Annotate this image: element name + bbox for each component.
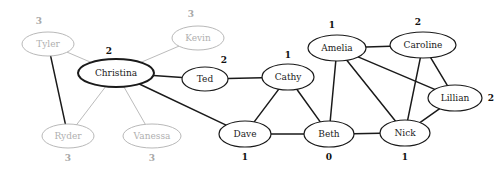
graph-edge-tyler-christina (67, 52, 91, 62)
node-name-amelia: Amelia (320, 43, 353, 53)
graph-node-nick[interactable]: Nick (380, 120, 430, 146)
node-layer: TylerKevinChristinaTedCathyRyderVanessaD… (22, 26, 482, 148)
graph-edge-lillian-nick (420, 109, 440, 123)
graph-node-christina[interactable]: Christina (78, 59, 154, 87)
graph-node-ted[interactable]: Ted (182, 67, 228, 91)
graph-edge-caroline-lillian (431, 58, 448, 86)
node-name-ryder: Ryder (54, 131, 82, 141)
node-name-kevin: Kevin (185, 33, 211, 43)
graph-node-cathy[interactable]: Cathy (262, 64, 314, 90)
node-value-lillian: 2 (488, 93, 494, 103)
node-value-ryder: 3 (65, 153, 71, 163)
node-value-christina: 2 (106, 46, 112, 56)
node-name-beth: Beth (318, 129, 340, 139)
node-value-vanessa: 3 (149, 153, 155, 163)
graph-edge-amelia-lillian (358, 57, 435, 89)
graph-edge-cathy-beth (297, 89, 320, 122)
node-value-beth: 0 (326, 152, 332, 162)
network-diagram: TylerKevinChristinaTedCathyRyderVanessaD… (0, 0, 499, 170)
node-name-caroline: Caroline (404, 40, 443, 50)
graph-node-beth[interactable]: Beth (304, 121, 354, 147)
graph-node-lillian[interactable]: Lillian (428, 85, 482, 111)
node-value-kevin: 3 (188, 9, 194, 19)
node-value-caroline: 2 (415, 17, 421, 27)
graph-edge-cathy-dave (254, 89, 279, 122)
graph-edge-amelia-caroline (366, 46, 390, 47)
graph-edge-christina-vanessa (124, 87, 146, 125)
graph-edge-caroline-nick (408, 58, 421, 120)
graph-edge-tyler-ryder (51, 56, 66, 124)
graph-edge-ted-cathy (228, 78, 262, 79)
graph-edge-christina-ryder (77, 86, 106, 124)
graph-node-tyler[interactable]: Tyler (22, 32, 74, 56)
node-value-amelia: 1 (329, 20, 335, 30)
node-value-dave: 1 (242, 152, 248, 162)
graph-node-caroline[interactable]: Caroline (390, 32, 456, 58)
node-value-nick: 1 (402, 152, 408, 162)
node-value-cathy: 1 (285, 50, 291, 60)
graph-node-dave[interactable]: Dave (219, 121, 271, 147)
node-name-cathy: Cathy (275, 72, 303, 82)
graph-node-kevin[interactable]: Kevin (172, 26, 224, 50)
graph-node-amelia[interactable]: Amelia (308, 35, 366, 61)
node-name-lillian: Lillian (441, 93, 470, 103)
node-name-nick: Nick (394, 128, 416, 138)
graph-node-vanessa[interactable]: Vanessa (123, 124, 181, 148)
node-name-vanessa: Vanessa (133, 131, 171, 141)
node-value-ted: 2 (221, 55, 227, 65)
graph-canvas: TylerKevinChristinaTedCathyRyderVanessaD… (0, 0, 499, 170)
node-name-tyler: Tyler (36, 39, 60, 49)
graph-node-ryder[interactable]: Ryder (42, 124, 94, 148)
graph-edge-christina-ted (153, 76, 182, 78)
graph-edge-kevin-christina (141, 46, 179, 62)
graph-edge-beth-amelia (330, 61, 336, 121)
node-name-christina: Christina (95, 68, 138, 78)
node-value-tyler: 3 (36, 16, 42, 26)
node-name-dave: Dave (234, 129, 257, 139)
node-name-ted: Ted (197, 74, 214, 84)
